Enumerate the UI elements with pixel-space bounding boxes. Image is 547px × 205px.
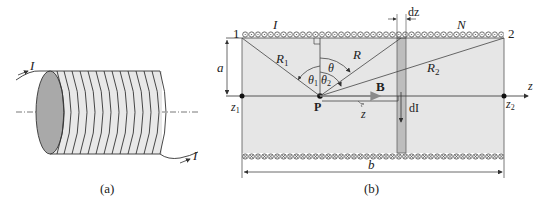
solenoid-3d-view: I I (a): [16, 58, 200, 196]
current-in-arrow: [18, 71, 28, 75]
end1-label: 1: [233, 26, 240, 41]
dz-label: dz: [408, 5, 419, 19]
z1-point: [240, 94, 245, 99]
solenoid-body: [50, 71, 162, 154]
caption-b: (b): [364, 181, 379, 196]
coil-top-row: [242, 31, 504, 38]
dz-strip: [397, 38, 406, 153]
point-P-label: P: [314, 100, 321, 114]
current-out-arrow: [180, 159, 190, 163]
length-label: b: [368, 157, 375, 172]
solenoid-cross-section: I N 1 2 a dz dI R1 R R2 θ θ1 θ2 P B z z …: [217, 5, 533, 196]
B-field-label: B: [376, 79, 385, 94]
solenoid-end-face: [36, 71, 64, 154]
z-axis-label: z: [527, 79, 533, 93]
current-in-label: I: [29, 58, 35, 73]
dI-label: dI: [409, 101, 419, 115]
radius-label: a: [217, 60, 224, 75]
caption-a: (a): [100, 181, 114, 196]
current-label: I: [272, 17, 278, 32]
z2-label: z2: [505, 97, 515, 112]
theta-label: θ: [328, 61, 334, 75]
solenoid-figure: I I (a): [0, 0, 547, 205]
z1-label: z1: [230, 100, 240, 115]
R-label: R: [352, 47, 361, 62]
turns-label: N: [456, 17, 467, 32]
end2-label: 2: [508, 26, 515, 41]
z-offset-label: z: [360, 107, 366, 121]
current-out-label: I: [192, 148, 198, 163]
